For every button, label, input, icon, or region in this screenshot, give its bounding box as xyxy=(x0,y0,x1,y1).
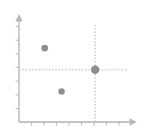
guide-lines-group xyxy=(19,25,127,122)
plot-canvas xyxy=(0,0,144,139)
scatter-plot-figure xyxy=(0,0,144,139)
y-axis-arrowhead xyxy=(15,14,22,22)
data-point-marker xyxy=(58,88,64,94)
data-point-marker xyxy=(91,66,99,74)
x-axis-arrowhead xyxy=(130,118,138,125)
data-point-marker xyxy=(41,45,48,52)
